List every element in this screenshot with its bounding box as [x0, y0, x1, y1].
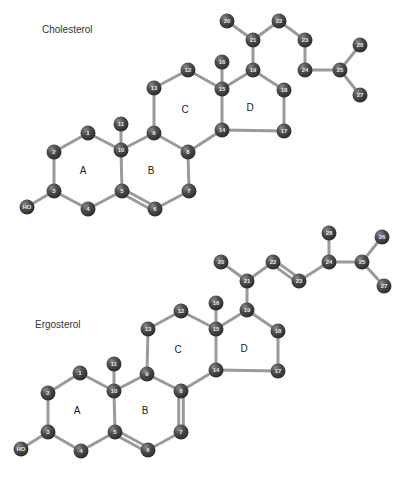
ergosterol-molecule: Ergosterol ABCD 123456789101112131415161…	[14, 226, 392, 459]
cholesterol-molecule: Cholesterol ABCD 12345678910111213141516…	[20, 14, 368, 217]
ergosterol-atoms: 1234567891011121314151617181920212223242…	[14, 226, 392, 459]
ergosterol-atom-12: 12	[174, 304, 189, 319]
cholesterol-atom-3: 3	[47, 184, 62, 199]
atom-label: 13	[145, 326, 152, 332]
atom-label: 12	[178, 308, 185, 314]
bond-17-14	[222, 130, 284, 131]
ergosterol-atom-22: 22	[266, 255, 281, 270]
atom-label: 23	[302, 37, 309, 43]
atom-label: 15	[213, 326, 220, 332]
ergosterol-atom-16: 16	[209, 296, 224, 311]
cholesterol-bonds	[27, 21, 360, 211]
ergosterol-atom-19: 19	[240, 303, 255, 318]
ergosterol-atom-24: 24	[322, 255, 337, 270]
cholesterol-atom-10: 10	[114, 143, 129, 158]
cholesterol-atom-24: 24	[298, 63, 313, 78]
cholesterol-atom-17: 17	[277, 124, 292, 139]
cholesterol-ring-label-b: B	[148, 165, 155, 176]
atom-label: 11	[111, 361, 118, 367]
cholesterol-atom-2: 2	[47, 145, 62, 160]
bond-17-14	[216, 370, 278, 371]
ergosterol-atom-10: 10	[107, 384, 122, 399]
atom-label: 16	[213, 300, 220, 306]
cholesterol-title: Cholesterol	[42, 24, 93, 35]
atom-label: 10	[111, 388, 118, 394]
ergosterol-atom-28: 28	[322, 226, 337, 241]
ergosterol-atom-13: 13	[141, 322, 156, 337]
cholesterol-atom-27: 27	[353, 88, 368, 103]
cholesterol-atom-11: 11	[114, 117, 129, 132]
atom-label: 11	[118, 121, 125, 127]
atom-label: 25	[337, 67, 344, 73]
ergosterol-atom-25: 25	[355, 255, 370, 270]
atom-label: 10	[118, 147, 125, 153]
atom-label: 25	[359, 259, 366, 265]
atom-label: 17	[281, 128, 288, 134]
atom-label: 16	[219, 59, 226, 65]
ergosterol-atom-17: 17	[271, 364, 286, 379]
cholesterol-atom-9: 9	[147, 126, 162, 141]
atom-label: 27	[381, 283, 388, 289]
atom-label: 24	[302, 67, 309, 73]
atom-label: 20	[218, 259, 225, 265]
atom-label: 22	[270, 259, 277, 265]
atom-label: 13	[151, 85, 158, 91]
atom-label: 26	[379, 234, 386, 240]
atom-label: 28	[326, 230, 333, 236]
atom-label: 12	[185, 67, 192, 73]
cholesterol-atom-16: 16	[215, 55, 230, 70]
cholesterol-atom-20: 20	[220, 14, 235, 29]
atom-label: HO	[23, 204, 32, 210]
ergosterol-atom-2: 2	[41, 386, 56, 401]
ergosterol-atom-18: 18	[271, 324, 286, 339]
ergosterol-atom-3: 3	[41, 425, 56, 440]
cholesterol-atom-14: 14	[215, 123, 230, 138]
cholesterol-atom-26: 26	[353, 38, 368, 53]
atom-label: HO	[17, 446, 26, 452]
cholesterol-atom-7: 7	[182, 184, 197, 199]
cholesterol-atom-1: 1	[81, 126, 96, 141]
cholesterol-atom-ho: HO	[20, 200, 35, 215]
ergosterol-atom-5: 5	[108, 425, 123, 440]
cholesterol-atom-13: 13	[147, 81, 162, 96]
cholesterol-atom-5: 5	[115, 184, 130, 199]
atom-label: 19	[244, 307, 251, 313]
atom-label: 26	[357, 42, 364, 48]
ergosterol-atom-11: 11	[107, 357, 122, 372]
cholesterol-atom-15: 15	[215, 82, 230, 97]
cholesterol-atom-25: 25	[333, 63, 348, 78]
cholesterol-atom-18: 18	[277, 83, 292, 98]
atom-label: 24	[326, 259, 333, 265]
ergosterol-atom-27: 27	[377, 279, 392, 294]
atom-label: 15	[219, 86, 226, 92]
ergosterol-atom-20: 20	[214, 255, 229, 270]
ergosterol-atom-23: 23	[292, 274, 307, 289]
atom-label: 21	[244, 278, 251, 284]
cholesterol-atoms: 1234567891011121314151617181920212223242…	[20, 14, 368, 217]
ergosterol-atom-21: 21	[240, 274, 255, 289]
atom-label: 14	[219, 127, 226, 133]
ergosterol-atom-9: 9	[140, 367, 155, 382]
ergosterol-ring-label-c: C	[174, 344, 181, 355]
cholesterol-atom-19: 19	[246, 63, 261, 78]
atom-label: 17	[275, 368, 282, 374]
atom-label: 22	[276, 18, 283, 24]
ergosterol-title: Ergosterol	[35, 319, 81, 330]
atom-label: 21	[250, 37, 257, 43]
cholesterol-atom-21: 21	[246, 33, 261, 48]
cholesterol-atom-4: 4	[81, 202, 96, 217]
cholesterol-atom-23: 23	[298, 33, 313, 48]
atom-label: 18	[275, 328, 282, 334]
cholesterol-ring-label-a: A	[80, 165, 87, 176]
cholesterol-ring-label-c: C	[181, 104, 188, 115]
ergosterol-atom-4: 4	[74, 444, 89, 459]
atom-label: 20	[224, 18, 231, 24]
cholesterol-atom-6: 6	[148, 202, 163, 217]
ergosterol-atom-7: 7	[174, 425, 189, 440]
ergosterol-ring-label-a: A	[74, 405, 81, 416]
ergosterol-atom-26: 26	[375, 230, 390, 245]
ergosterol-ring-labels: ABCD	[74, 343, 248, 416]
cholesterol-atom-22: 22	[272, 14, 287, 29]
ergosterol-ring-label-d: D	[240, 343, 247, 354]
cholesterol-atom-8: 8	[181, 145, 196, 160]
